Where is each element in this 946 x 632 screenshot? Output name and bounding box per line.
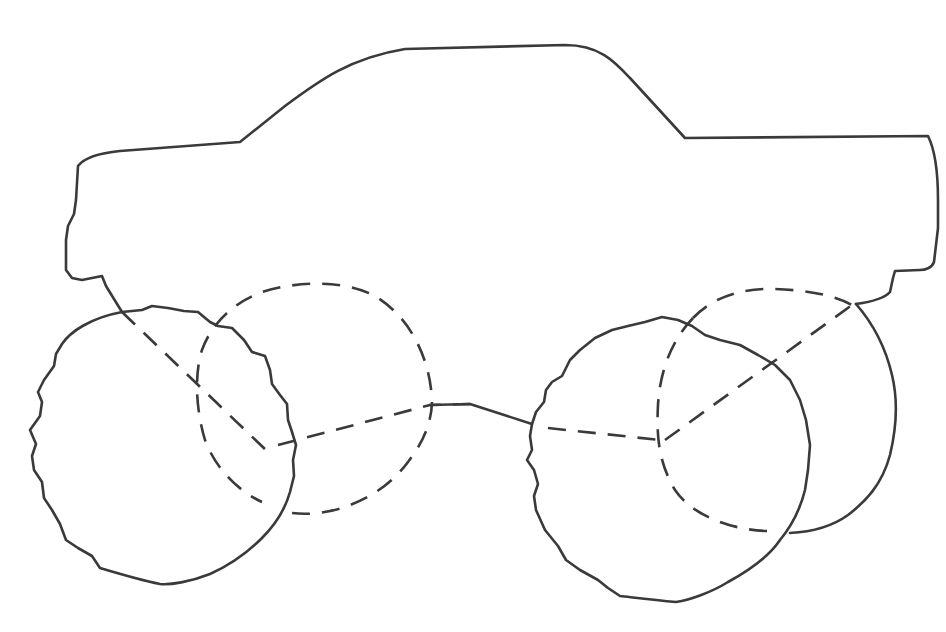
front-wheel-near bbox=[30, 306, 296, 584]
front-wheel-far bbox=[197, 284, 432, 514]
monster-truck-drawing bbox=[0, 0, 946, 632]
rear-wheel-near bbox=[527, 317, 810, 602]
truck-body bbox=[66, 45, 938, 424]
